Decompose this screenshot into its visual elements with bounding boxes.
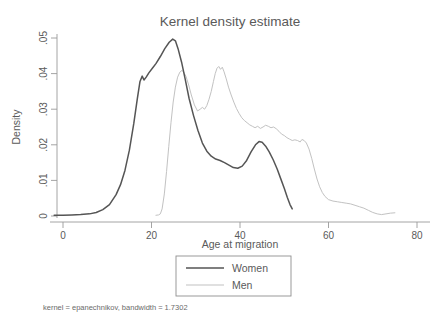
y-tick-label: .04: [38, 66, 49, 80]
kernel-density-figure: Kernel density estimate 0.01.02.03.04.05…: [0, 0, 443, 328]
y-tick-label: .03: [38, 102, 49, 116]
legend-label-women: Women: [232, 262, 268, 274]
y-tick-label: .01: [38, 173, 49, 187]
x-tick-label: 80: [411, 230, 423, 241]
x-tick-label: 0: [60, 230, 66, 241]
y-tick-label: .02: [38, 137, 49, 151]
x-axis: 020406080 Age at migration: [50, 222, 430, 250]
x-tick-label: 60: [323, 230, 335, 241]
x-axis-title: Age at migration: [202, 238, 279, 250]
y-tick-label: .05: [38, 31, 49, 45]
data-series-group: [54, 39, 395, 215]
chart-title: Kernel density estimate: [160, 14, 300, 29]
x-tick-label: 20: [146, 230, 158, 241]
y-axis-title: Density: [10, 109, 22, 145]
chart-canvas: Kernel density estimate 0.01.02.03.04.05…: [0, 0, 443, 328]
y-tick-group: 0.01.02.03.04.05: [38, 31, 57, 219]
y-tick-label: 0: [38, 213, 49, 219]
chart-footnote: kernel = epanechnikov, bandwidth = 1.730…: [43, 303, 188, 312]
legend-label-men: Men: [232, 279, 253, 291]
y-axis: 0.01.02.03.04.05 Density: [10, 31, 57, 219]
series-line-men: [156, 66, 395, 215]
chart-legend[interactable]: Women Men: [176, 256, 291, 296]
